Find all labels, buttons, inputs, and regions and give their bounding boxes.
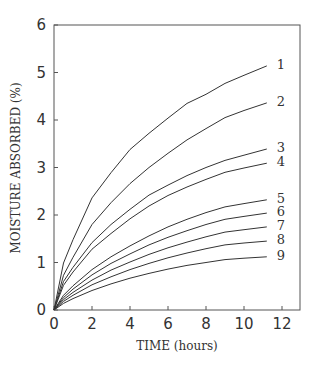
x-tick-label: 12	[272, 315, 291, 333]
series-label-2: 2	[277, 94, 285, 109]
series-label-1: 1	[277, 57, 285, 72]
series-label-4: 4	[277, 154, 285, 169]
y-tick-label: 1	[36, 254, 46, 272]
series-label-3: 3	[277, 140, 285, 155]
x-axis-title: TIME (hours)	[136, 339, 218, 353]
series-line-8	[54, 241, 267, 310]
series-line-1	[54, 66, 267, 310]
series-label-6: 6	[277, 204, 285, 219]
x-tick-label: 2	[87, 315, 97, 333]
y-axis: 0123456	[36, 16, 58, 319]
series-labels: 123456789	[277, 57, 285, 263]
y-tick-label: 3	[36, 159, 46, 177]
y-tick-label: 6	[36, 16, 46, 34]
series-label-8: 8	[277, 232, 285, 247]
x-tick-label: 8	[201, 315, 211, 333]
x-tick-label: 4	[125, 315, 135, 333]
series-label-7: 7	[277, 218, 285, 233]
x-tick-label: 6	[163, 315, 173, 333]
series-line-7	[54, 227, 267, 310]
series-line-3	[54, 149, 267, 310]
series-line-9	[54, 257, 267, 310]
x-tick-label: 10	[234, 315, 253, 333]
y-tick-label: 2	[36, 206, 46, 224]
y-tick-label: 4	[36, 111, 46, 129]
series-line-6	[54, 213, 267, 310]
series-lines	[54, 66, 267, 310]
y-tick-label: 5	[36, 64, 46, 82]
y-tick-label: 0	[36, 301, 46, 319]
y-axis-title: MOISTURE ABSORBED (%)	[9, 82, 23, 253]
x-tick-label: 0	[49, 315, 59, 333]
moisture-absorption-chart: 0123456 024681012 123456789 TIME (hours)…	[0, 0, 314, 367]
series-label-9: 9	[277, 248, 285, 263]
